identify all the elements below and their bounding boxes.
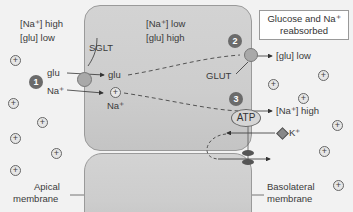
cell-na-label: Na⁺ [107,100,124,112]
k-channel-bottom [242,159,254,165]
apical-na-condition: [Na⁺] high [20,18,63,30]
sodium-ion-icon: + [10,165,21,176]
cell-glu-label: glu [108,69,121,81]
sodium-ion-icon: + [10,133,21,144]
basolateral-membrane-label-2: membrane [267,193,312,205]
step-badge-2: 2 [228,34,242,48]
k-label: K⁺ [289,127,300,139]
sodium-ion-icon: + [51,148,62,159]
apical-na-label: Na⁺ [47,85,64,97]
callout-line-2: reabsorbed [263,25,345,37]
sglt-label: SGLT [89,42,113,54]
apical-glu-condition: [glu] low [20,32,55,44]
step-badge-3: 3 [229,92,243,106]
apical-membrane-label-2: membrane [13,193,58,205]
sodium-ion-icon: + [37,117,48,128]
basolateral-glu-label: [glu] low [276,50,311,62]
cell-glu-condition: [glu] high [146,32,185,44]
k-channel-top [242,150,254,156]
apical-membrane-label-1: Apical [34,181,60,193]
basolateral-membrane-label-1: Basolateral [267,181,315,193]
sodium-ion-icon: + [10,55,21,66]
apical-glu-label: glu [47,67,60,79]
callout-line-1: Glucose and Na⁺ [263,13,345,25]
sodium-ion-icon: + [332,120,343,131]
sodium-ion-icon: + [298,93,309,104]
sglt-transporter [77,72,92,87]
glut-transporter [244,48,258,62]
sodium-ion-icon: + [333,180,344,191]
cell-na-condition: [Na⁺] low [146,18,185,30]
sodium-ion-icon: + [268,79,279,90]
step-badge-1: 1 [29,75,43,89]
sodium-ion-icon: + [110,87,121,98]
atp-pump: ATP [231,109,261,127]
sodium-ion-icon: + [318,70,329,81]
sodium-ion-icon: + [8,98,19,109]
sodium-ion-icon: + [319,146,330,157]
glut-label: GLUT [206,70,231,82]
basolateral-na-label: [Na⁺] high [276,105,319,117]
callout-box: Glucose and Na⁺ reabsorbed [259,10,349,40]
